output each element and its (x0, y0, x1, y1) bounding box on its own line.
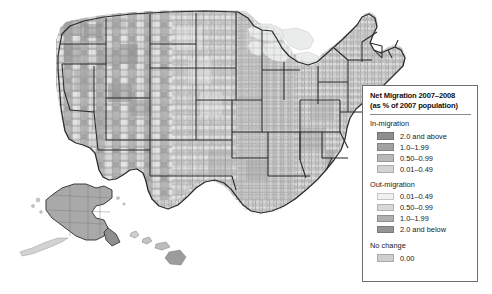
legend-swatch-out-1-to-199 (377, 215, 394, 223)
legend-swatch-out-001-to-049 (377, 193, 394, 201)
legend-swatch-in-050-to-099 (377, 154, 394, 162)
legend-divider (370, 114, 471, 115)
west-texture (56, 10, 174, 200)
legend-item-in-2-and-above: 2.0 and above (370, 131, 471, 142)
alaska-inset (20, 184, 125, 256)
legend-spacer-1 (370, 175, 471, 179)
legend-section-heading-out-migration: Out-migration (370, 180, 471, 190)
hawaii-big-island (165, 250, 186, 265)
hawaii-kauai (130, 231, 139, 238)
legend-swatch-out-050-to-099 (377, 204, 394, 212)
legend-item-no-change-000: 0.00 (370, 253, 471, 264)
legend-item-in-050-to-099: 0.50–0.99 (370, 153, 471, 164)
legend-section-heading-no-change: No change (370, 241, 471, 251)
hawaii-molokai-maui (155, 242, 170, 250)
aleutian-islands (20, 238, 68, 256)
legend-label-out-1-to-199: 1.0–1.99 (400, 214, 429, 223)
legend-swatch-no-change-000 (377, 254, 394, 262)
legend-label-out-050-to-099: 0.50–0.99 (400, 203, 433, 212)
legend-title-line1: Net Migration 2007–2008 (370, 91, 471, 101)
legend-item-in-1-to-199: 1.0–1.99 (370, 142, 471, 153)
legend-label-no-change-000: 0.00 (400, 254, 414, 263)
legend-label-out-001-to-049: 0.01–0.49 (400, 192, 433, 201)
legend-item-out-050-to-099: 0.50–0.99 (370, 202, 471, 213)
legend-swatch-in-1-to-199 (377, 143, 394, 151)
alaska-landmass (46, 184, 112, 240)
legend-section-heading-in-migration: In-migration (370, 119, 471, 129)
lower-48-counties (56, 10, 410, 215)
figure-canvas: Net Migration 2007–2008 (as % of 2007 po… (0, 0, 492, 294)
map-legend: Net Migration 2007–2008 (as % of 2007 po… (362, 85, 478, 282)
legend-swatch-in-001-to-049 (377, 165, 394, 173)
legend-swatch-in-2-and-above (377, 132, 394, 140)
legend-item-out-2-and-below: 2.0 and below (370, 224, 471, 235)
legend-swatch-out-2-and-below (377, 226, 394, 234)
legend-label-in-001-to-049: 0.01–0.49 (400, 165, 433, 174)
hawaii-inset (130, 231, 186, 265)
alaska-panhandle (104, 228, 120, 246)
legend-item-in-001-to-049: 0.01–0.49 (370, 164, 471, 175)
legend-item-out-001-to-049: 0.01–0.49 (370, 191, 471, 202)
legend-title-line2: (as % of 2007 population) (370, 101, 471, 111)
legend-item-out-1-to-199: 1.0–1.99 (370, 213, 471, 224)
legend-label-in-2-and-above: 2.0 and above (400, 132, 447, 141)
hawaii-oahu (142, 237, 152, 244)
legend-label-in-1-to-199: 1.0–1.99 (400, 143, 429, 152)
legend-label-in-050-to-099: 0.50–0.99 (400, 154, 433, 163)
legend-label-out-2-and-below: 2.0 and below (400, 225, 446, 234)
